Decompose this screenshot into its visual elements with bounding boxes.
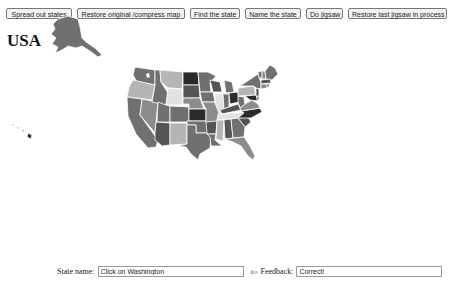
state-iowa[interactable] — [200, 92, 215, 102]
state-new-mexico[interactable] — [170, 123, 187, 145]
left-arrow-icon: ⇦ — [250, 267, 258, 277]
state-ohio[interactable] — [229, 92, 239, 104]
state-name-input[interactable] — [98, 266, 244, 277]
state-alaska[interactable] — [51, 16, 102, 57]
state-mississippi[interactable] — [216, 120, 224, 141]
state-delaware[interactable] — [257, 96, 259, 100]
state-rhode-island[interactable] — [267, 84, 269, 87]
bottom-bar: State name: ⇦ Feedback: — [57, 266, 442, 277]
state-kansas[interactable] — [189, 109, 206, 121]
state-florida[interactable] — [225, 137, 255, 160]
state-north-dakota[interactable] — [183, 72, 199, 85]
feedback-input[interactable] — [296, 266, 442, 277]
state-south-dakota[interactable] — [183, 85, 200, 98]
state-michigan[interactable] — [224, 80, 234, 93]
feedback-label: Feedback: — [261, 267, 294, 276]
state-massachusetts[interactable] — [261, 79, 271, 84]
usa-map — [0, 0, 457, 291]
state-indiana[interactable] — [223, 94, 229, 109]
state-wisconsin[interactable] — [210, 80, 222, 92]
state-vermont[interactable] — [258, 71, 262, 78]
state-arkansas[interactable] — [206, 121, 217, 134]
state-hawaii[interactable] — [12, 124, 32, 139]
state-name-label: State name: — [57, 267, 95, 276]
state-colorado[interactable] — [170, 106, 189, 122]
state-arizona[interactable] — [155, 122, 170, 146]
state-wyoming[interactable] — [166, 88, 183, 105]
state-connecticut[interactable] — [261, 84, 267, 89]
state-pennsylvania[interactable] — [238, 86, 256, 96]
state-maine[interactable] — [265, 65, 278, 80]
